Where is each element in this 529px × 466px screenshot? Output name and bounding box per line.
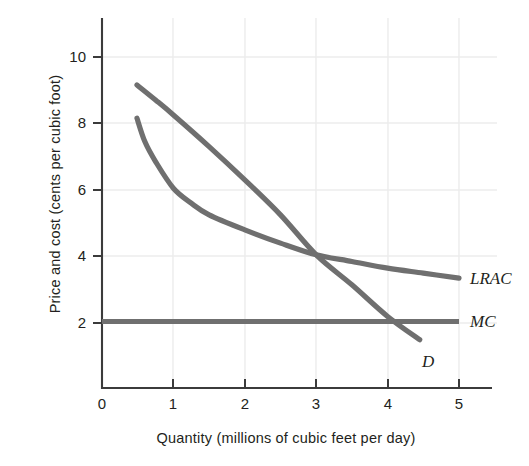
gridlines <box>102 18 497 388</box>
axis-lines <box>101 18 492 389</box>
y-tick-label-10: 10 <box>52 48 86 65</box>
x-tick-label-1: 1 <box>159 395 187 412</box>
y-tick-label-4: 4 <box>52 247 86 264</box>
series-line-lrac <box>137 118 459 278</box>
y-tick-label-6: 6 <box>52 181 86 198</box>
series-label-d: D <box>422 352 434 372</box>
x-tick-label-0: 0 <box>88 395 116 412</box>
series-label-lrac: LRAC <box>470 269 512 289</box>
x-tick-label-2: 2 <box>231 395 259 412</box>
y-tick-label-8: 8 <box>52 114 86 131</box>
x-tick-label-3: 3 <box>302 395 330 412</box>
x-axis-title: Quantity (millions of cubic feet per day… <box>96 430 476 446</box>
x-tick-label-4: 4 <box>374 395 402 412</box>
chart-figure: Price and cost (cents per cubic foot) Qu… <box>0 0 529 466</box>
y-axis-ticks <box>93 57 102 323</box>
x-tick-label-5: 5 <box>445 395 473 412</box>
y-tick-label-2: 2 <box>52 314 86 331</box>
x-axis-ticks <box>173 379 459 388</box>
series-label-mc: MC <box>470 312 496 332</box>
